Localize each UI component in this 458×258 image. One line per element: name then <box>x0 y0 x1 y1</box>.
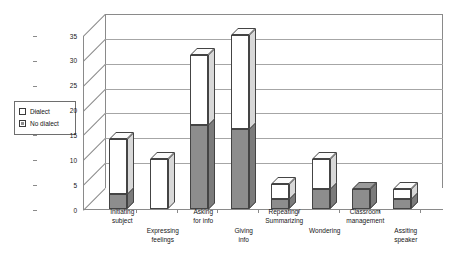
y-axis-tick-label: 0 <box>37 207 77 214</box>
x-axis-category-label: Repeating/ Summarizing <box>257 208 312 225</box>
legend-item-no-dialect: No dialect <box>19 118 71 129</box>
bar-segment-dialect[interactable] <box>271 184 289 199</box>
gray-square-icon <box>19 120 26 127</box>
y-axis-tick-mark <box>33 36 37 37</box>
y-axis-tick-mark <box>33 111 37 112</box>
bar-side-face <box>168 152 175 209</box>
x-axis-labels: Initiating subjectExpressing feelingsAsk… <box>83 208 458 258</box>
stacked-bar[interactable] <box>271 184 289 209</box>
y-axis-tick-mark <box>33 160 37 161</box>
y-axis-tick-label: 5 <box>37 182 77 189</box>
x-axis-category-label: Wondering <box>298 227 353 236</box>
y-axis-tick-mark <box>33 210 37 211</box>
bar-segment-dialect[interactable] <box>312 159 330 189</box>
bar-side-face-no-dialect <box>208 118 215 210</box>
y-axis-tick-label: 30 <box>37 57 77 64</box>
stacked-bar[interactable] <box>109 139 127 209</box>
y-axis-tick-label: 25 <box>37 82 77 89</box>
white-square-icon <box>19 108 26 115</box>
y-axis-tick-label: 10 <box>37 157 77 164</box>
bar-segment-dialect[interactable] <box>150 159 168 209</box>
x-axis-category-label: Classroom management <box>338 208 393 225</box>
stacked-bar[interactable] <box>150 159 168 209</box>
y-axis-tick-mark <box>33 61 37 62</box>
bar-segment-no-dialect[interactable] <box>231 129 249 209</box>
stacked-bar[interactable] <box>352 189 370 209</box>
bar-segment-no-dialect[interactable] <box>190 125 208 210</box>
x-axis-category-label: Expressing feelings <box>136 227 191 244</box>
x-axis-category-label: Asking for info <box>176 208 231 225</box>
y-axis-tick-mark <box>33 135 37 136</box>
y-axis-tick-mark <box>33 185 37 186</box>
bar-side-face-no-dialect <box>249 122 256 209</box>
bar-segment-dialect[interactable] <box>231 35 249 129</box>
bar-segment-dialect[interactable] <box>393 189 411 199</box>
bar-segment-no-dialect[interactable] <box>109 194 127 209</box>
stacked-bar[interactable] <box>393 189 411 209</box>
bar-segment-dialect[interactable] <box>190 55 208 125</box>
bar-segment-no-dialect[interactable] <box>352 189 370 209</box>
legend-label-no-dialect: No dialect <box>30 120 59 128</box>
stacked-bar[interactable] <box>190 55 208 209</box>
y-axis-tick-mark <box>33 86 37 87</box>
bar-segment-dialect[interactable] <box>109 139 127 194</box>
y-axis-tick-label: 20 <box>37 107 77 114</box>
x-axis-category-label: Assiting speaker <box>379 227 434 244</box>
x-axis-category-label: Initiating subject <box>95 208 150 225</box>
bar-chart: 05101520253035 <box>83 14 443 210</box>
bar-segment-no-dialect[interactable] <box>312 189 330 209</box>
y-axis-tick-label: 35 <box>37 33 77 40</box>
y-axis-tick-label: 15 <box>37 132 77 139</box>
bar-series-container <box>83 14 443 210</box>
stacked-bar[interactable] <box>231 35 249 209</box>
x-axis-category-label: Giving info <box>217 227 272 244</box>
stacked-bar[interactable] <box>312 159 330 209</box>
